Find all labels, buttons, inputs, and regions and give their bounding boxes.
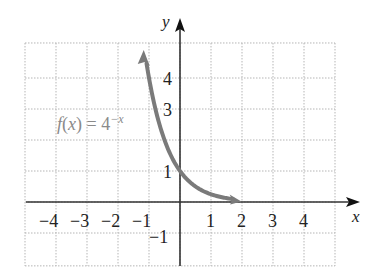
y-tick-label: 1 [163,162,172,182]
y-tick-label: −1 [149,227,168,247]
x-tick-label: −3 [70,211,89,231]
function-graph: −4−3−2−11234431−1 y x f(x) = 4−x [0,0,382,278]
x-tick-label: 3 [268,211,277,231]
y-tick-label: 3 [163,100,172,120]
x-tick-label: −4 [39,211,58,231]
x-tick-label: 1 [206,211,215,231]
curve-arrow-top-icon [138,50,150,66]
function-exponent: −x [110,112,124,126]
x-tick-label: 4 [299,211,308,231]
x-tick-label: 2 [237,211,246,231]
x-tick-label: −2 [101,211,120,231]
x-axis-label: x [351,207,360,226]
function-curve [147,63,233,199]
function-label: f(x) = 4−x [57,112,124,135]
y-axis-label: y [160,12,170,31]
y-tick-label: 4 [163,69,172,89]
